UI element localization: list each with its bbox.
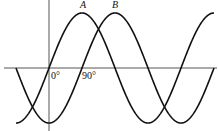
wave-b-label: B <box>112 0 118 10</box>
tick-label-90: 90° <box>82 70 96 81</box>
phase-diagram: A B 0° 90° <box>0 0 218 131</box>
wave-a-label: A <box>79 0 87 10</box>
tick-label-0: 0° <box>51 70 60 81</box>
